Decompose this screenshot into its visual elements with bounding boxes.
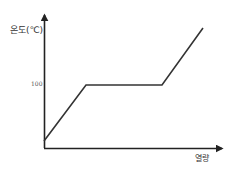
x-axis-label: 열량 (195, 152, 209, 163)
y-tick-100: 100 (31, 80, 42, 87)
y-axis-label: 온도(℃) (10, 23, 43, 36)
heating-curve-line (44, 28, 203, 141)
